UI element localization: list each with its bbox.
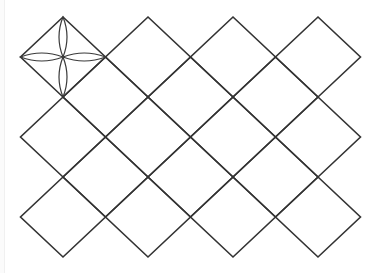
diamond-lattice [21, 17, 361, 257]
four-petal-flower-icon [21, 17, 106, 97]
diamond-cell [21, 177, 106, 257]
diamond-cell [63, 137, 148, 217]
diamond-cell [191, 177, 276, 257]
diamond-cell [191, 17, 276, 97]
diamond-cell [276, 17, 361, 97]
diamond-cell [21, 97, 106, 177]
diamond-cell [106, 177, 191, 257]
diamond-cell [63, 57, 148, 137]
diamond-cell [233, 137, 318, 217]
diamond-cell [106, 97, 191, 177]
diamond-cell [106, 17, 191, 97]
diamond-cell [191, 97, 276, 177]
diamond-lattice-diagram [0, 0, 373, 273]
petal-shape [21, 53, 64, 61]
petal-shape [63, 53, 106, 61]
diamond-cell [148, 57, 233, 137]
diamond-cell [276, 177, 361, 257]
diamond-cell [148, 137, 233, 217]
diamond-cell [233, 57, 318, 137]
diamond-cell [276, 97, 361, 177]
petal-shape [59, 17, 67, 57]
petal-shape [59, 57, 67, 97]
